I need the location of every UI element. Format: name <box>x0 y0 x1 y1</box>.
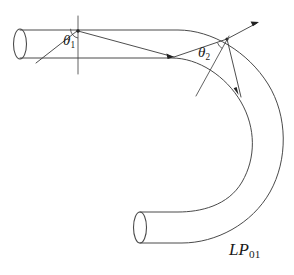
fiber-outer-wall <box>20 30 283 243</box>
theta2-symbol: θ <box>198 44 205 60</box>
mode-symbol: LP <box>229 240 249 259</box>
fiber-diagram-svg <box>0 0 294 275</box>
fiber-inner-wall <box>20 58 252 212</box>
fiber-diagram: θ1 θ2 LP01 <box>0 0 294 275</box>
input-face-ellipse <box>14 29 27 59</box>
theta1-subscript: 1 <box>71 40 76 50</box>
output-face-ellipse <box>134 212 147 243</box>
ray-segment-downward <box>78 31 174 57</box>
theta1-symbol: θ <box>63 32 70 48</box>
angle-label-theta2: θ2 <box>198 45 210 60</box>
theta2-subscript: 2 <box>206 52 211 62</box>
angle-label-theta1: θ1 <box>63 33 75 48</box>
mode-subscript: 01 <box>249 248 260 260</box>
angle-arc-theta2 <box>217 43 222 49</box>
mode-label-lp01: LP01 <box>229 241 260 258</box>
